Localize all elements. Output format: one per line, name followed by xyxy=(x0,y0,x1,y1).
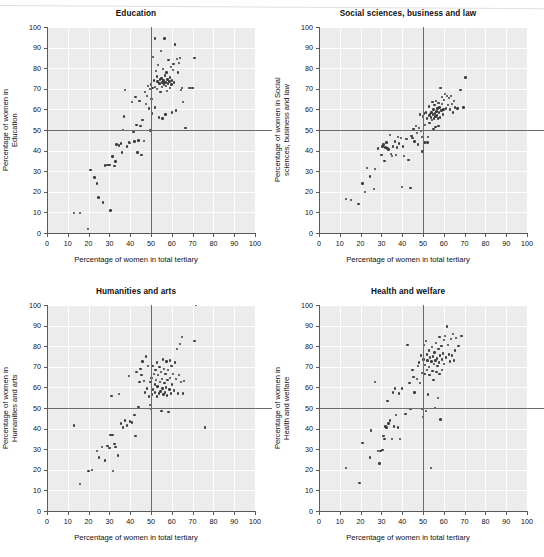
panel-education: Education0102030405060708090100010203040… xyxy=(0,0,272,278)
x-axis-tick xyxy=(213,234,214,237)
data-point xyxy=(442,113,444,115)
y-axis-tick xyxy=(316,212,319,213)
data-point xyxy=(170,392,172,394)
y-axis-tick-label: 0 xyxy=(293,507,313,516)
data-point xyxy=(433,104,435,106)
x-axis-tick xyxy=(423,234,424,237)
x-axis-tick-label: 0 xyxy=(309,239,329,248)
x-axis-tick xyxy=(319,234,320,237)
y-axis-tick xyxy=(44,151,47,152)
data-point xyxy=(117,454,119,456)
x-axis-tick xyxy=(151,512,152,515)
data-point xyxy=(183,380,185,382)
y-axis-tick-label: 70 xyxy=(21,362,41,371)
y-axis-tick-label: 100 xyxy=(293,301,313,310)
x-axis-tick xyxy=(109,234,110,237)
data-point xyxy=(426,117,428,119)
data-point xyxy=(165,85,167,87)
x-axis-tick-label: 20 xyxy=(79,239,99,248)
data-point xyxy=(398,142,400,144)
data-point xyxy=(426,359,428,361)
data-point xyxy=(123,115,125,117)
data-point xyxy=(188,87,190,89)
data-point xyxy=(459,89,461,91)
y-axis-tick-label: 30 xyxy=(293,167,313,176)
data-point xyxy=(113,443,115,445)
data-point xyxy=(160,410,162,412)
x-axis-tick-label: 30 xyxy=(371,517,391,526)
data-point xyxy=(180,381,182,383)
x-axis-tick-label: 60 xyxy=(162,239,182,248)
y-axis-tick xyxy=(44,171,47,172)
data-point xyxy=(122,426,124,428)
x-axis-tick xyxy=(506,234,507,237)
data-point xyxy=(443,363,445,365)
x-axis-tick-label: 60 xyxy=(434,517,454,526)
data-point xyxy=(131,101,133,103)
data-point xyxy=(391,155,393,157)
data-point xyxy=(87,470,89,472)
data-point xyxy=(155,70,157,72)
x-axis-tick xyxy=(130,512,131,515)
data-point xyxy=(397,136,399,138)
data-point xyxy=(433,117,435,119)
data-point xyxy=(366,167,368,169)
y-axis-tick xyxy=(316,490,319,491)
data-point xyxy=(456,107,458,109)
y-axis-tick xyxy=(44,89,47,90)
data-point xyxy=(450,338,452,340)
y-axis-tick xyxy=(44,449,47,450)
x-axis-tick xyxy=(89,512,90,515)
data-point xyxy=(158,392,160,394)
x-axis-tick xyxy=(423,512,424,515)
x-axis-tick-label: 70 xyxy=(183,517,203,526)
y-axis-tick-label: 30 xyxy=(21,167,41,176)
x-axis-tick-label: 100 xyxy=(517,517,537,526)
data-point xyxy=(73,212,75,214)
data-point xyxy=(162,393,164,395)
y-axis-tick xyxy=(44,305,47,306)
data-point xyxy=(135,371,137,373)
data-point xyxy=(448,97,450,99)
data-point xyxy=(161,117,163,119)
data-point xyxy=(413,391,415,393)
data-point xyxy=(174,361,176,363)
data-point xyxy=(408,382,410,384)
y-axis-tick xyxy=(44,326,47,327)
x-axis-tick-label: 70 xyxy=(455,517,475,526)
data-point xyxy=(143,140,145,142)
data-point xyxy=(460,335,462,337)
x-axis-tick xyxy=(381,512,382,515)
x-axis-tick xyxy=(234,234,235,237)
y-axis-tick xyxy=(44,212,47,213)
y-axis-tick-label: 50 xyxy=(21,404,41,413)
data-point xyxy=(181,336,183,338)
y-axis-tick-label: 60 xyxy=(21,383,41,392)
data-point xyxy=(157,374,159,376)
data-point xyxy=(434,126,436,128)
x-axis-tick-label: 10 xyxy=(330,239,350,248)
data-point xyxy=(156,88,158,90)
data-point xyxy=(438,373,440,375)
data-point xyxy=(426,141,428,143)
data-point xyxy=(171,111,173,113)
x-axis-tick xyxy=(47,234,48,237)
data-point xyxy=(172,63,174,65)
y-axis-tick-label: 50 xyxy=(21,126,41,135)
y-axis-tick-label: 100 xyxy=(293,23,313,32)
data-point xyxy=(404,413,406,415)
data-point xyxy=(138,100,140,102)
x-axis-tick-label: 20 xyxy=(351,517,371,526)
x-axis-tick-label: 90 xyxy=(496,517,516,526)
data-point xyxy=(397,426,399,428)
data-point xyxy=(439,354,441,356)
data-point xyxy=(166,90,168,92)
data-point xyxy=(160,50,162,52)
data-point xyxy=(441,96,443,98)
data-point xyxy=(147,85,149,87)
y-axis-tick-label: 90 xyxy=(293,43,313,52)
y-axis-tick xyxy=(316,68,319,69)
data-point xyxy=(386,400,388,402)
data-point xyxy=(145,103,147,105)
data-point xyxy=(444,335,446,337)
